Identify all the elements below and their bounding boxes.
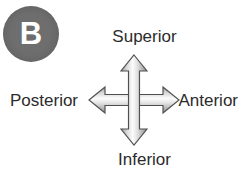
direction-label-inferior: Inferior bbox=[0, 150, 245, 169]
anatomical-orientation-figure: B bbox=[0, 0, 245, 176]
four-way-arrow-icon bbox=[88, 54, 180, 146]
direction-label-anterior: Anterior bbox=[178, 91, 238, 110]
direction-label-posterior: Posterior bbox=[10, 91, 78, 110]
direction-label-superior: Superior bbox=[0, 27, 245, 46]
